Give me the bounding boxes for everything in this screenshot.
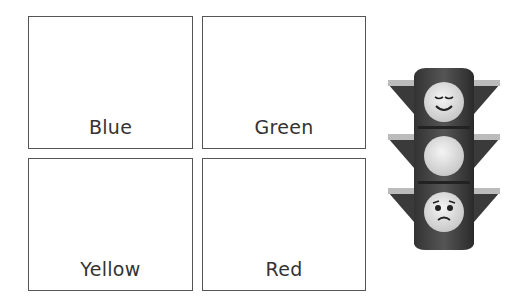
traffic-light-image[interactable] xyxy=(386,66,502,250)
drop-box-blue[interactable]: Blue xyxy=(28,16,193,149)
box-label: Yellow xyxy=(29,258,192,280)
box-label: Red xyxy=(203,258,365,280)
light-bottom-sad xyxy=(424,192,464,232)
drop-box-green[interactable]: Green xyxy=(202,16,366,149)
drop-box-yellow[interactable]: Yellow xyxy=(28,158,193,291)
light-top-happy xyxy=(424,82,464,122)
box-label: Green xyxy=(203,116,365,138)
box-label: Blue xyxy=(29,116,192,138)
light-middle-blank xyxy=(424,136,464,176)
drop-box-red[interactable]: Red xyxy=(202,158,366,291)
